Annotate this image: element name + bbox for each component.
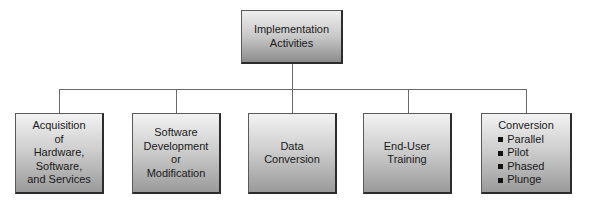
list-item: Pilot xyxy=(498,146,544,160)
bullet-square-icon xyxy=(498,137,503,142)
bullet-square-icon xyxy=(498,178,503,183)
conversion-content: Conversion Parallel Pilot Phased Plunge xyxy=(498,119,554,187)
node-label-line: Development xyxy=(144,140,209,154)
list-item-label: Phased xyxy=(507,160,544,174)
node-label-line: Data xyxy=(280,140,303,154)
conversion-methods-list: Parallel Pilot Phased Plunge xyxy=(498,133,544,187)
node-data-conversion: Data Conversion xyxy=(248,113,337,194)
node-implementation-activities: Implementation Activities xyxy=(241,10,343,64)
node-label-line: Implementation xyxy=(254,23,329,37)
list-item-label: Pilot xyxy=(507,146,528,160)
node-label-line: Hardware, xyxy=(34,146,85,160)
child-2-connector-line xyxy=(176,89,177,113)
node-label-line: Acquisition xyxy=(32,119,85,133)
node-acquisition: Acquisition of Hardware, Software, and S… xyxy=(15,113,104,194)
child-5-connector-line xyxy=(526,89,527,113)
node-label-line: Conversion xyxy=(264,153,320,167)
node-software-development: Software Development or Modification xyxy=(132,113,221,194)
list-item: Phased xyxy=(498,160,544,174)
horizontal-connector-line xyxy=(59,89,527,90)
root-connector-line xyxy=(292,64,293,89)
node-label-line: of xyxy=(54,133,63,147)
list-item: Parallel xyxy=(498,133,544,147)
node-label-line: Software xyxy=(154,126,197,140)
list-item-label: Parallel xyxy=(507,133,544,147)
child-4-connector-line xyxy=(408,89,409,113)
node-label-line: Activities xyxy=(270,37,313,51)
node-title: Conversion xyxy=(498,119,554,133)
org-chart-diagram: Implementation Activities Acquisition of… xyxy=(0,0,590,206)
list-item: Plunge xyxy=(498,173,544,187)
node-label-line: or xyxy=(171,153,181,167)
bullet-square-icon xyxy=(498,151,503,156)
node-conversion: Conversion Parallel Pilot Phased Plunge xyxy=(481,113,572,194)
node-label-line: Software, xyxy=(36,160,82,174)
node-label-line: End-User xyxy=(384,140,430,154)
child-3-connector-line xyxy=(292,89,293,113)
node-label-line: Training xyxy=(387,153,426,167)
bullet-square-icon xyxy=(498,164,503,169)
node-label-line: Modification xyxy=(147,167,206,181)
child-1-connector-line xyxy=(59,89,60,113)
node-end-user-training: End-User Training xyxy=(363,113,452,194)
node-label-line: and Services xyxy=(27,173,91,187)
list-item-label: Plunge xyxy=(507,173,541,187)
